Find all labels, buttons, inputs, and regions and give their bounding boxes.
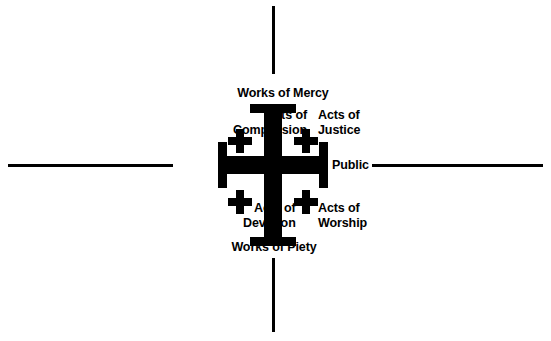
label-acts-of-justice: Acts of Justice [318,108,360,137]
label-acts-of-compassion: Acts of Compassion [233,108,307,137]
label-works-of-mercy: Works of Mercy [237,86,328,101]
axis-line-vertical-top [272,6,275,74]
axis-line-horizontal-left [8,164,173,167]
axis-line-horizontal-right [372,164,543,167]
label-public: Public [332,158,369,173]
label-works-of-piety: Works of Piety [231,240,316,255]
label-private: Private [232,158,273,173]
diagram-canvas: Works of Mercy Works of Piety Private Pu… [0,0,551,341]
axis-line-vertical-bottom [272,258,275,332]
label-acts-of-devotion: Acts of Devotion [243,201,296,230]
label-acts-of-worship: Acts of Worship [318,201,367,230]
